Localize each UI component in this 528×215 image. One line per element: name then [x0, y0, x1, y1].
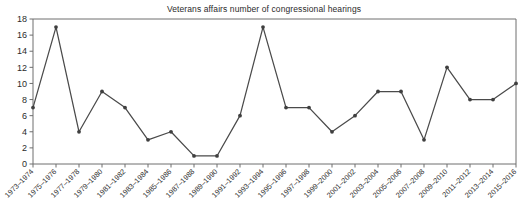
y-axis-ticks: 024681012141618 [17, 14, 33, 169]
chart-figure: Veterans affairs number of congressional… [0, 0, 528, 215]
data-point-marker [215, 154, 219, 158]
y-tick-label: 4 [22, 127, 27, 137]
data-series [33, 27, 516, 156]
y-tick-label: 6 [22, 111, 27, 121]
y-tick-label: 8 [22, 95, 27, 105]
data-point-marker [261, 25, 265, 29]
data-point-marker [77, 130, 81, 134]
data-point-marker [468, 98, 472, 102]
data-point-marker [514, 82, 518, 86]
data-point-marker [123, 106, 127, 110]
y-tick-label: 14 [17, 46, 27, 56]
y-tick-label: 16 [17, 30, 27, 40]
data-point-marker [491, 98, 495, 102]
data-point-marker [376, 90, 380, 94]
data-point-marker [54, 25, 58, 29]
data-point-marker [100, 90, 104, 94]
data-point-marker [238, 114, 242, 118]
data-point-marker [31, 106, 35, 110]
chart-axes [33, 19, 516, 164]
y-tick-label: 0 [22, 159, 27, 169]
data-point-marker [445, 65, 449, 69]
data-point-marker [284, 106, 288, 110]
data-point-marker [146, 138, 150, 142]
data-point-marker [399, 90, 403, 94]
y-tick-label: 10 [17, 79, 27, 89]
y-tick-label: 2 [22, 143, 27, 153]
y-tick-label: 18 [17, 14, 27, 24]
series-line-hearings [33, 27, 516, 156]
plot-frame [33, 19, 516, 164]
data-markers [31, 25, 518, 158]
y-tick-label: 12 [17, 63, 27, 73]
data-point-marker [307, 106, 311, 110]
line-chart-plot: 024681012141618 1973–19741975–19761977–1… [0, 0, 528, 215]
data-point-marker [422, 138, 426, 142]
data-point-marker [353, 114, 357, 118]
data-point-marker [330, 130, 334, 134]
data-point-marker [192, 154, 196, 158]
data-point-marker [169, 130, 173, 134]
x-axis-ticks: 1973–19741975–19761977–19781979–19801981… [3, 164, 519, 200]
